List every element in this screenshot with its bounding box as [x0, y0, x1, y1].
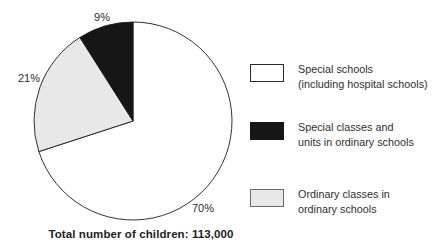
- legend-label-special-schools: Special schools (including hospital scho…: [298, 62, 428, 91]
- legend-label-special-classes: Special classes and units in ordinary sc…: [298, 120, 414, 149]
- legend-label-line: ordinary schools: [298, 202, 390, 217]
- legend-label-ordinary-classes: Ordinary classes in ordinary schools: [298, 187, 390, 216]
- pie-slices-group: [34, 22, 232, 220]
- pie-label-special-schools: 70%: [192, 202, 214, 214]
- figure-pie-chart: 9% 21% 70% Total number of children: 113…: [0, 0, 437, 249]
- pie-label-ordinary-classes: 21%: [18, 72, 40, 84]
- pie-label-special-classes: 9%: [94, 11, 110, 23]
- legend-item-special-classes: Special classes and units in ordinary sc…: [250, 120, 414, 149]
- legend-item-ordinary-classes: Ordinary classes in ordinary schools: [250, 187, 390, 216]
- pie-chart-svg: 9% 21% 70%: [0, 0, 282, 249]
- total-children-caption: Total number of children: 113,000: [0, 228, 282, 240]
- legend-swatch-special-classes: [250, 122, 284, 140]
- legend-label-line: units in ordinary schools: [298, 135, 414, 150]
- legend-item-special-schools: Special schools (including hospital scho…: [250, 62, 428, 91]
- legend-label-line: (including hospital schools): [298, 77, 428, 92]
- legend-label-line: Ordinary classes in: [298, 187, 390, 202]
- legend-label-line: Special classes and: [298, 120, 414, 135]
- legend-swatch-special-schools: [250, 64, 284, 82]
- legend-label-line: Special schools: [298, 62, 428, 77]
- legend-swatch-ordinary-classes: [250, 189, 284, 207]
